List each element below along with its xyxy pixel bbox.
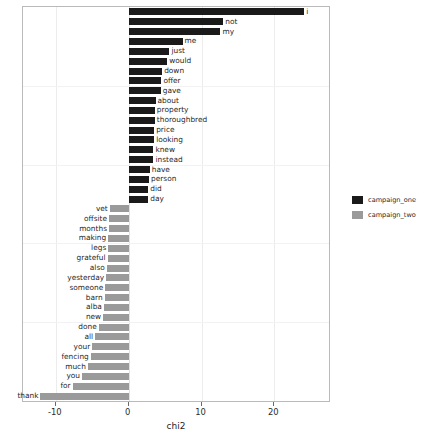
bar[interactable] [109,225,129,232]
bar-row[interactable]: down [23,68,329,75]
bar[interactable] [73,383,129,390]
bar-row[interactable]: property [23,107,329,114]
bar-row[interactable]: also [23,265,329,272]
x-tick-label: 20 [268,407,279,417]
bar-row[interactable]: done [23,324,329,331]
bar[interactable] [129,186,149,193]
bar-label: offer [163,77,180,85]
bar-row[interactable]: barn [23,294,329,301]
bar-row[interactable]: alba [23,304,329,311]
bar[interactable] [129,136,155,143]
bar[interactable] [129,8,305,15]
bar-row[interactable]: your [23,343,329,350]
bar[interactable] [129,87,161,94]
bar-row[interactable]: much [23,363,329,370]
bar-row[interactable]: offsite [23,215,329,222]
bar[interactable] [129,58,168,65]
x-tick-mark [273,402,274,406]
bar-row[interactable]: instead [23,156,329,163]
bar-label: new [86,313,101,321]
bar-row[interactable]: thoroughbred [23,117,329,124]
bar-label: barn [86,294,103,302]
bar-row[interactable]: have [23,166,329,173]
bar-row[interactable]: months [23,225,329,232]
bar[interactable] [99,324,129,331]
bar-label: for [60,382,70,390]
bar[interactable] [129,38,183,45]
bar-row[interactable]: price [23,127,329,134]
bar-row[interactable]: day [23,196,329,203]
bar[interactable] [129,196,149,203]
bar[interactable] [129,28,221,35]
bar-row[interactable]: new [23,314,329,321]
bar[interactable] [129,127,155,134]
bar-row[interactable]: just [23,48,329,55]
bar-row[interactable]: person [23,176,329,183]
bar-row[interactable]: offer [23,77,329,84]
bar[interactable] [129,117,155,124]
bar-row[interactable]: vet [23,205,329,212]
bar[interactable] [92,343,128,350]
bar[interactable] [129,68,163,75]
bar-label: about [158,97,179,105]
bar-row[interactable]: about [23,97,329,104]
bar[interactable] [91,353,129,360]
bar[interactable] [129,48,170,55]
bar-row[interactable]: yesterday [23,274,329,281]
bar-row[interactable]: my [23,28,329,35]
bar[interactable] [105,294,129,301]
bar[interactable] [129,107,155,114]
bar-row[interactable]: i [23,8,329,15]
bar-row[interactable]: thank [23,393,329,400]
bar[interactable] [105,284,128,291]
bar-row[interactable]: looking [23,136,329,143]
bar-label: knew [155,146,175,154]
bar[interactable] [129,146,154,153]
bar[interactable] [82,373,129,380]
bar[interactable] [103,314,129,321]
bar-row[interactable]: legs [23,245,329,252]
plot-panel: inotmymejustwoulddownoffergaveaboutprope… [22,6,330,402]
bar[interactable] [108,255,129,262]
bar[interactable] [108,235,128,242]
bar[interactable] [129,176,149,183]
legend-item-campaign-one[interactable]: campaign_one [352,196,416,204]
bar-row[interactable]: you [23,373,329,380]
bar-label: me [185,37,197,45]
bar-row[interactable]: fencing [23,353,329,360]
x-tick-label: 0 [125,407,130,417]
x-tick-mark [55,402,56,406]
bar[interactable] [104,304,129,311]
bar-row[interactable]: someone [23,284,329,291]
bar[interactable] [88,363,129,370]
bar[interactable] [95,333,129,340]
bar-row[interactable]: all [23,333,329,340]
bar[interactable] [106,274,129,281]
bar-label: fencing [61,353,88,361]
bar[interactable] [40,393,128,400]
bar-row[interactable]: did [23,186,329,193]
bar-row[interactable]: would [23,58,329,65]
bar-label: thank [17,392,38,400]
bar-label: price [156,126,174,134]
bar-row[interactable]: knew [23,146,329,153]
bar-row[interactable]: gave [23,87,329,94]
bar-label: i [306,8,308,16]
bar-row[interactable]: me [23,38,329,45]
bar[interactable] [129,166,150,173]
bar-row[interactable]: making [23,235,329,242]
bar-row[interactable]: not [23,18,329,25]
bar[interactable] [109,215,129,222]
bar[interactable] [110,205,129,212]
bar-row[interactable]: for [23,383,329,390]
bar-row[interactable]: grateful [23,255,329,262]
bar[interactable] [129,18,224,25]
bar[interactable] [108,245,128,252]
bar[interactable] [107,265,129,272]
bar[interactable] [129,97,156,104]
x-axis-title: chi2 [22,421,330,431]
bar[interactable] [129,77,162,84]
bar-label: have [152,166,170,174]
bar[interactable] [129,156,154,163]
legend-item-campaign-two[interactable]: campaign_two [352,211,416,219]
